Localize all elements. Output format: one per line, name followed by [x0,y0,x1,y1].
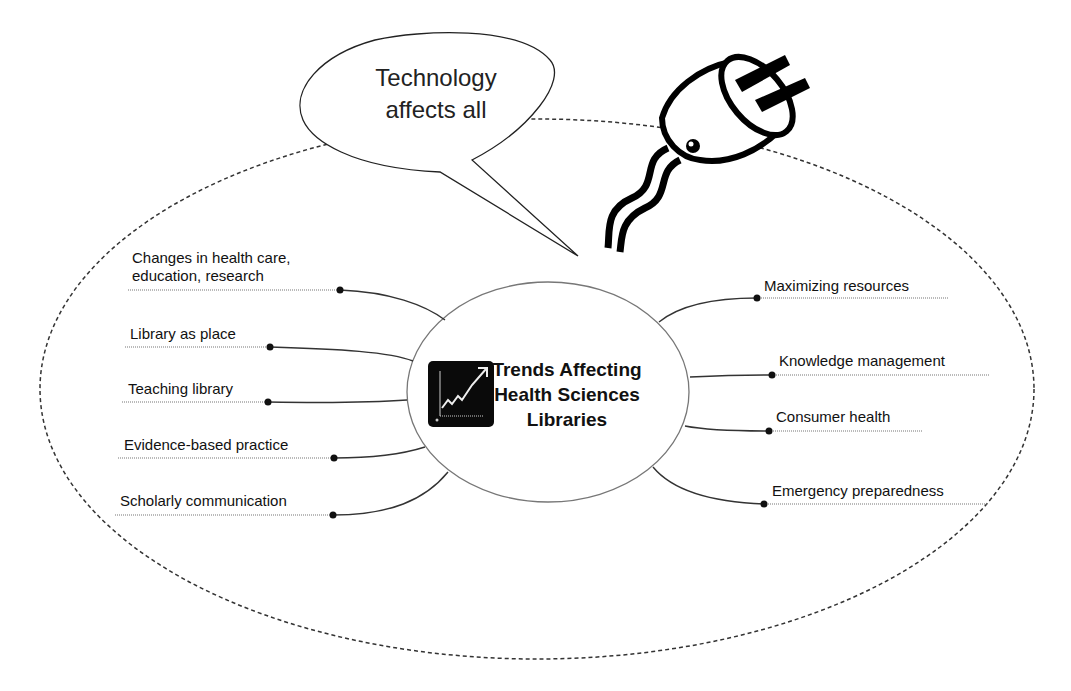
trend-chart-icon [428,361,494,427]
branch-label-line: education, research [132,267,264,284]
branch-label: Emergency preparedness [772,482,944,499]
branch-consumer-health: Consumer health [685,408,923,435]
branch-scholarly-communication: Scholarly communication [115,472,448,519]
branch-emergency-preparedness: Emergency preparedness [653,467,988,508]
branch-label: Teaching library [128,380,234,397]
branch-label-line: Changes in health care, [132,249,290,266]
branch-label: Consumer health [776,408,890,425]
branch-library-as-place: Library as place [125,325,413,361]
branch-label: Library as place [130,325,236,342]
branch-changes-in-health-care: Changes in health care, education, resea… [128,249,445,320]
technology-callout: Technology affects all [300,33,578,256]
branch-knowledge-management: Knowledge management [690,352,990,379]
branch-label: Evidence-based practice [124,436,288,453]
branch-evidence-based-practice: Evidence-based practice [118,436,425,462]
branch-teaching-library: Teaching library [122,380,407,406]
callout-line-1: Technology [375,64,496,91]
central-topic-line-2: Health Sciences [494,384,640,405]
branch-maximizing-resources: Maximizing resources [659,277,948,322]
branch-label: Scholarly communication [120,492,287,509]
central-topic-line-3: Libraries [527,409,607,430]
branch-label: Maximizing resources [764,277,909,294]
callout-line-2: affects all [386,96,487,123]
mind-map-canvas: Technology affects all Trends Affecting … [0,0,1071,691]
branch-label: Knowledge management [779,352,946,369]
central-topic-line-1: Trends Affecting [492,359,641,380]
electric-plug-icon [608,44,810,252]
